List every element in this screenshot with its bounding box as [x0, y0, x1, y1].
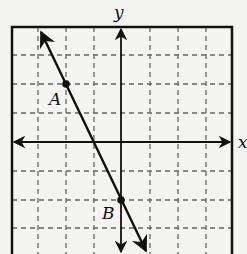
x-axis-label: x: [238, 134, 247, 151]
grid-lines: [12, 27, 232, 254]
y-axis-label: y: [114, 4, 124, 21]
point-b: [117, 196, 125, 204]
point-b-label: B: [102, 205, 115, 222]
point-a-label: A: [49, 91, 61, 108]
coordinate-plane: [0, 0, 247, 254]
axes: [14, 29, 230, 252]
plot-border: [12, 27, 232, 254]
point-a: [62, 80, 70, 88]
